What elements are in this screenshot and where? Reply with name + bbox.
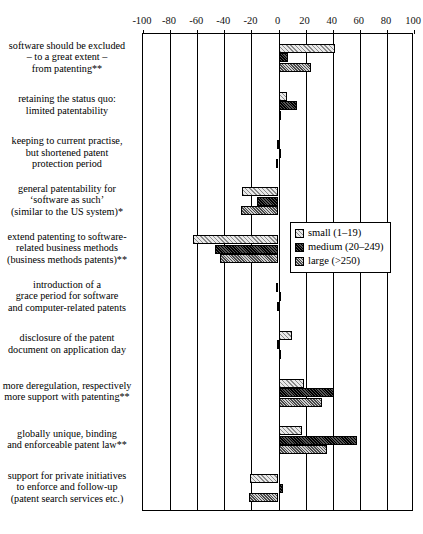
- axis-tickmark: [170, 30, 171, 34]
- x-tick-label: 20: [290, 14, 320, 28]
- bar: [279, 379, 305, 388]
- bar: [279, 292, 281, 301]
- bar: [276, 159, 279, 168]
- legend-swatch-icon: [295, 257, 304, 266]
- category-label-line: globally unique, binding: [0, 428, 134, 440]
- category-label-line: document on application day: [0, 344, 134, 356]
- category-label: disclosure of the patentdocument on appl…: [0, 332, 134, 355]
- category-label: software should be excluded– to a great …: [0, 40, 134, 75]
- axis-tickmark: [279, 30, 280, 34]
- bar: [277, 340, 279, 349]
- axis-tickmark: [224, 30, 225, 34]
- gridline: [197, 34, 198, 510]
- gridline: [170, 34, 171, 510]
- category-label-line: disclosure of the patent: [0, 332, 134, 344]
- category-label-line: software should be excluded: [0, 40, 134, 52]
- category-label-line: grace period for software: [0, 290, 134, 302]
- category-label-line: (business methods patents)**: [0, 254, 134, 266]
- category-label-line: protection period: [0, 158, 134, 170]
- category-label: more deregulation, respectivelymore supp…: [0, 380, 134, 403]
- bar: [279, 44, 336, 53]
- legend-label: medium (20–249): [308, 240, 384, 254]
- category-label-line: retaining the status quo:: [0, 93, 134, 105]
- x-tick-label: 40: [317, 14, 347, 28]
- category-label-line: ‘software as such’: [0, 194, 134, 206]
- category-label-line: to enforce and follow-up: [0, 481, 134, 493]
- bar: [279, 53, 288, 62]
- bar: [257, 197, 279, 206]
- category-label: general patentability for‘software as su…: [0, 183, 134, 218]
- axis-tickmark: [333, 30, 334, 34]
- axis-tickmark: [414, 30, 415, 34]
- category-label-line: limited patentability: [0, 105, 134, 117]
- x-tick-label: -80: [154, 14, 184, 28]
- x-tick-label: 60: [344, 14, 374, 28]
- category-label-line: support for private initiatives: [0, 470, 134, 482]
- legend: small (1–19)medium (20–249)large (>250): [290, 222, 391, 273]
- legend-item: medium (20–249): [295, 240, 384, 254]
- bar: [277, 302, 279, 311]
- category-labels: software should be excluded– to a great …: [0, 33, 140, 511]
- legend-label: large (>250): [308, 254, 360, 268]
- category-label: globally unique, bindingand enforceable …: [0, 428, 134, 451]
- bar: [279, 350, 281, 359]
- bar: [215, 245, 279, 254]
- axis-tickmark: [251, 30, 252, 34]
- axis-tickmark: [306, 30, 307, 34]
- x-tick-label: -100: [127, 14, 157, 28]
- bar: [279, 92, 287, 101]
- legend-label: small (1–19): [308, 226, 361, 240]
- category-label-line: related business methods: [0, 242, 134, 254]
- x-tick-label: 100: [398, 14, 423, 28]
- bar: [276, 283, 279, 292]
- bar: [277, 140, 279, 149]
- category-label-line: extend patenting to software-: [0, 231, 134, 243]
- bar: [279, 426, 302, 435]
- bar: [279, 484, 283, 493]
- x-tick-label: -20: [235, 14, 265, 28]
- gridline: [224, 34, 225, 510]
- bar: [279, 398, 322, 407]
- bar: [279, 436, 358, 445]
- bar: [242, 187, 279, 196]
- x-tick-label: -60: [181, 14, 211, 28]
- axis-tickmark: [360, 30, 361, 34]
- bar: [279, 149, 281, 158]
- bar: [279, 331, 293, 340]
- category-label-line: – to a great extent –: [0, 51, 134, 63]
- legend-swatch-icon: [295, 243, 304, 252]
- category-label: retaining the status quo:limited patenta…: [0, 93, 134, 116]
- bar: [250, 474, 278, 483]
- category-label: support for private initiativesto enforc…: [0, 470, 134, 505]
- bar: [279, 388, 335, 397]
- chart-container: -100-80-60-40-20020406080100 software sh…: [0, 0, 423, 534]
- bar: [279, 63, 312, 72]
- bar: [249, 493, 279, 502]
- category-label-line: (patent search services etc.): [0, 493, 134, 505]
- axis-tickmark: [197, 30, 198, 34]
- category-label-line: and computer-related patents: [0, 302, 134, 314]
- category-label: extend patenting to software-related bus…: [0, 231, 134, 266]
- bar: [279, 101, 298, 110]
- category-label: introduction of agrace period for softwa…: [0, 279, 134, 314]
- bar: [279, 445, 328, 454]
- bar: [193, 235, 278, 244]
- x-tick-label: 80: [371, 14, 401, 28]
- x-tick-label: -40: [208, 14, 238, 28]
- bar: [220, 254, 278, 263]
- x-axis-tick-labels: -100-80-60-40-20020406080100: [0, 14, 423, 28]
- legend-item: large (>250): [295, 254, 384, 268]
- bar: [241, 206, 279, 215]
- bar: [279, 111, 281, 120]
- x-tick-label: 0: [263, 14, 293, 28]
- category-label-line: introduction of a: [0, 279, 134, 291]
- legend-item: small (1–19): [295, 226, 384, 240]
- gridline: [251, 34, 252, 510]
- category-label-line: general patentability for: [0, 183, 134, 195]
- axis-tickmark: [387, 30, 388, 34]
- category-label-line: from patenting**: [0, 63, 134, 75]
- legend-swatch-icon: [295, 229, 304, 238]
- category-label-line: more deregulation, respectively: [0, 380, 134, 392]
- category-label-line: more support with patenting**: [0, 391, 134, 403]
- category-label-line: and enforceable patent law**: [0, 439, 134, 451]
